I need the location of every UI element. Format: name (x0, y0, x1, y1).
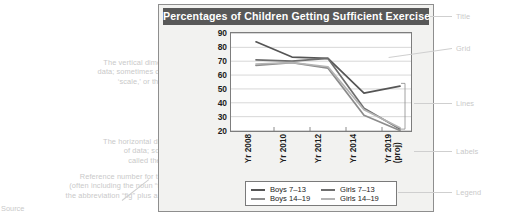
y-tick-50: 50 (207, 85, 227, 93)
x-tick-2019: Yr 2019 (proj) (384, 134, 402, 163)
chart-infographic: The vertical dimension of data; sometime… (0, 0, 520, 224)
legend-row-2: Boys 14–19 Girls 14–19 (251, 194, 391, 203)
chart-legend: Boys 7–13 Girls 7–13 Boys 14–19 Girls 14… (245, 181, 397, 206)
series-line-2 (256, 63, 400, 131)
legend-label-boys-7-13: Boys 7–13 (270, 185, 306, 194)
legend-swatch-boys-14-19 (251, 198, 265, 200)
series-lines (256, 42, 405, 131)
source-label: Source (1, 204, 24, 213)
plot-svg (231, 33, 411, 131)
annotation-title: Title (456, 12, 516, 21)
x-tick-2008: Yr 2008 (244, 134, 253, 163)
legend-label-boys-14-19: Boys 14–19 (270, 194, 310, 203)
leader-line-title (430, 16, 452, 17)
x-tick-2014: Yr 2014 (349, 134, 358, 163)
y-tick-80: 80 (207, 43, 227, 51)
legend-item-boys-7-13: Boys 7–13 (251, 185, 321, 194)
y-tick-20: 20 (207, 127, 227, 135)
legend-swatch-girls-14-19 (321, 198, 335, 200)
leader-line-labels (414, 151, 452, 152)
y-axis-labels: 90 80 70 60 50 40 30 20 (205, 0, 227, 224)
legend-swatch-boys-7-13 (251, 189, 265, 191)
legend-swatch-girls-7-13 (321, 189, 335, 191)
legend-item-boys-14-19: Boys 14–19 (251, 194, 321, 203)
lines-bracket (401, 83, 405, 129)
annotation-labels: Labels (456, 147, 516, 156)
legend-item-girls-14-19: Girls 14–19 (321, 194, 391, 203)
y-tick-60: 60 (207, 71, 227, 79)
legend-item-girls-7-13: Girls 7–13 (321, 185, 391, 194)
x-tick-2012: Yr 2012 (314, 134, 323, 163)
annotation-grid: Grid (456, 44, 516, 53)
legend-row-1: Boys 7–13 Girls 7–13 (251, 185, 391, 194)
gridlines (231, 34, 411, 131)
x-tick-2019-year: Yr 2019 (384, 134, 393, 163)
annotation-legend: Legend (456, 188, 516, 197)
chart-title: Percentages of Children Getting Sufficie… (163, 8, 429, 25)
y-tick-90: 90 (207, 29, 227, 37)
legend-label-girls-7-13: Girls 7–13 (340, 185, 375, 194)
y-tick-70: 70 (207, 57, 227, 65)
x-axis-labels: Yr 2008 Yr 2010 Yr 2012 Yr 2014 Yr 2019 … (230, 134, 414, 180)
x-tick-2010: Yr 2010 (279, 134, 288, 163)
leader-line-legend (398, 192, 452, 193)
x-tick-2019-proj: (proj) (393, 134, 402, 163)
annotation-lines: Lines (456, 99, 516, 108)
y-tick-30: 30 (207, 113, 227, 121)
leader-line-lines (414, 103, 452, 104)
plot-area (230, 32, 412, 132)
series-line-3 (256, 63, 400, 128)
legend-label-girls-14-19: Girls 14–19 (340, 194, 379, 203)
y-tick-40: 40 (207, 99, 227, 107)
